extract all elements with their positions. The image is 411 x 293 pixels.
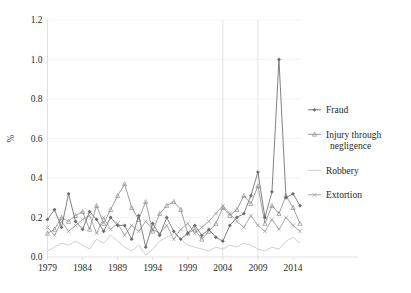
data-point-marker <box>144 245 148 249</box>
data-point-marker <box>67 192 71 196</box>
series-line <box>48 233 301 255</box>
data-point-marker <box>235 220 239 224</box>
data-point-marker <box>158 233 162 237</box>
y-tick-label: 1.0 <box>31 55 43 65</box>
data-point-marker <box>193 231 197 235</box>
data-point-marker <box>256 170 260 174</box>
data-point-marker <box>165 224 169 228</box>
data-point-marker <box>130 237 134 241</box>
legend-item-robbery[interactable]: Robbery <box>308 166 359 176</box>
series-fraud <box>46 58 302 249</box>
chart-container: 0.00.20.40.60.81.01.2%197919841989199419… <box>0 0 411 293</box>
data-point-marker <box>277 227 281 231</box>
x-tick-label: 2004 <box>213 263 232 273</box>
data-point-marker <box>291 192 295 196</box>
data-point-marker <box>179 227 183 231</box>
legend-label: Injury through <box>326 130 381 140</box>
line-chart: 0.00.20.40.60.81.01.2%197919841989199419… <box>0 0 411 293</box>
data-point-marker <box>313 108 317 112</box>
data-point-marker <box>298 204 302 208</box>
data-point-marker <box>186 222 190 226</box>
data-point-marker <box>298 229 302 233</box>
data-point-marker <box>249 194 253 198</box>
legend-item-injury-through-negligence[interactable]: Injury throughnegligence <box>308 130 381 152</box>
data-point-marker <box>123 224 127 228</box>
legend-label: Extortion <box>326 190 362 200</box>
data-point-marker <box>200 225 204 229</box>
x-tick-label: 1984 <box>73 263 92 273</box>
y-axis-title: % <box>6 134 16 142</box>
legend-label: Robbery <box>326 166 359 176</box>
y-tick-label: 0.2 <box>31 213 43 223</box>
data-point-marker <box>67 229 71 233</box>
data-point-marker <box>270 190 274 194</box>
data-point-marker <box>95 231 99 235</box>
y-tick-label: 0.6 <box>31 134 43 144</box>
data-point-marker <box>242 212 246 216</box>
data-point-marker <box>242 225 246 229</box>
data-point-marker <box>81 218 85 222</box>
legend-label: negligence <box>330 141 371 151</box>
data-point-marker <box>60 225 64 229</box>
data-point-marker <box>172 237 176 241</box>
x-tick-label: 1999 <box>178 263 197 273</box>
data-point-marker <box>109 227 113 231</box>
data-point-marker <box>207 220 211 224</box>
y-tick-label: 0.4 <box>31 173 43 183</box>
legend-item-fraud[interactable]: Fraud <box>308 105 348 115</box>
data-point-marker <box>165 216 169 220</box>
data-point-marker <box>144 220 148 224</box>
legend-item-extortion[interactable]: Extortion <box>308 190 362 200</box>
data-point-marker <box>291 224 295 228</box>
data-point-marker <box>249 214 253 218</box>
data-point-marker <box>102 229 106 233</box>
x-tick-label: 2009 <box>248 263 267 273</box>
data-point-marker <box>74 224 78 228</box>
data-point-marker <box>53 233 57 237</box>
y-tick-label: 1.2 <box>31 15 43 25</box>
x-tick-label: 1979 <box>38 263 57 273</box>
legend-label: Fraud <box>326 105 348 115</box>
data-point-marker <box>214 212 218 216</box>
series-robbery <box>48 233 301 255</box>
x-tick-label: 2014 <box>284 263 303 273</box>
data-point-marker <box>263 229 267 233</box>
data-point-marker <box>221 239 225 243</box>
x-tick-label: 1989 <box>108 263 127 273</box>
x-tick-label: 1994 <box>143 263 162 273</box>
data-point-marker <box>123 233 127 237</box>
y-tick-label: 0.8 <box>31 94 43 104</box>
data-point-marker <box>130 224 134 228</box>
y-tick-label: 0.0 <box>31 252 43 262</box>
data-point-marker <box>270 218 274 222</box>
data-point-marker <box>137 229 141 233</box>
data-point-marker <box>277 58 281 62</box>
